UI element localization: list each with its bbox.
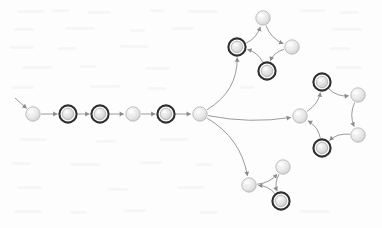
- transition-edge[interactable]: [207, 58, 237, 110]
- state-highlight: [354, 91, 359, 95]
- state-circle: [316, 142, 327, 153]
- transition-arrow-head: [308, 121, 313, 125]
- state-circle: [285, 40, 299, 54]
- state-node[interactable]: [193, 107, 207, 121]
- transition-arrow-head: [257, 27, 262, 32]
- accepting-state-node[interactable]: [313, 73, 330, 90]
- diagram-canvas: [0, 0, 382, 228]
- transition-arrow-head: [329, 136, 334, 141]
- state-highlight: [259, 14, 264, 18]
- node-layer: [26, 11, 365, 210]
- state-highlight: [319, 79, 323, 82]
- transition-arrow-head: [235, 58, 240, 62]
- accepting-state-node[interactable]: [258, 62, 275, 79]
- state-circle: [276, 160, 290, 174]
- state-highlight: [319, 145, 323, 148]
- accepting-state-node[interactable]: [59, 105, 76, 122]
- transition-arrow-head: [273, 186, 277, 191]
- state-highlight: [245, 181, 250, 185]
- transition-arrow-head: [244, 171, 249, 176]
- state-highlight: [296, 112, 301, 116]
- state-highlight: [354, 131, 359, 135]
- state-highlight: [196, 110, 201, 114]
- transition-arrow-head: [317, 92, 322, 97]
- accepting-state-node[interactable]: [91, 105, 108, 122]
- state-graph: [0, 0, 382, 228]
- transition-edge[interactable]: [208, 116, 291, 121]
- state-highlight: [234, 44, 238, 47]
- transition-edge[interactable]: [270, 49, 284, 61]
- accepting-state-node[interactable]: [228, 38, 245, 55]
- state-node[interactable]: [351, 88, 365, 102]
- state-node[interactable]: [256, 11, 270, 25]
- accepting-state-node[interactable]: [313, 139, 330, 156]
- state-circle: [193, 107, 207, 121]
- state-circle: [275, 195, 286, 206]
- state-circle: [126, 107, 140, 121]
- state-highlight: [264, 68, 268, 71]
- state-circle: [256, 11, 270, 25]
- state-highlight: [97, 111, 101, 114]
- transition-arrow-head: [269, 56, 274, 61]
- state-circle: [231, 41, 242, 52]
- state-node[interactable]: [351, 128, 365, 142]
- state-circle: [261, 65, 272, 76]
- state-node[interactable]: [285, 40, 299, 54]
- state-highlight: [288, 43, 293, 47]
- transition-arrow-head: [151, 112, 155, 117]
- state-circle: [94, 108, 105, 119]
- transition-arrow-head: [53, 112, 57, 117]
- state-circle: [316, 76, 327, 87]
- transition-arrow-head: [286, 116, 291, 121]
- state-node[interactable]: [242, 178, 256, 192]
- transition-arrow-head: [247, 48, 252, 53]
- state-node[interactable]: [293, 109, 307, 123]
- state-circle: [26, 107, 40, 121]
- state-circle: [351, 128, 365, 142]
- transition-arrow-head: [120, 112, 124, 117]
- transition-arrow-head: [187, 112, 191, 117]
- state-node[interactable]: [276, 160, 290, 174]
- state-circle: [293, 109, 307, 123]
- state-highlight: [278, 198, 282, 201]
- state-circle: [62, 108, 73, 119]
- state-node[interactable]: [26, 107, 40, 121]
- state-highlight: [163, 111, 167, 114]
- accepting-state-node[interactable]: [157, 105, 174, 122]
- state-circle: [351, 88, 365, 102]
- state-highlight: [279, 163, 284, 167]
- accepting-state-node[interactable]: [272, 192, 289, 209]
- state-circle: [160, 108, 171, 119]
- state-highlight: [65, 111, 69, 114]
- state-node[interactable]: [126, 107, 140, 121]
- transition-arrow-head: [344, 94, 348, 99]
- state-circle: [242, 178, 256, 192]
- transition-arrow-head: [85, 112, 89, 117]
- transition-edge[interactable]: [207, 118, 247, 176]
- state-highlight: [129, 110, 134, 114]
- state-highlight: [29, 110, 34, 114]
